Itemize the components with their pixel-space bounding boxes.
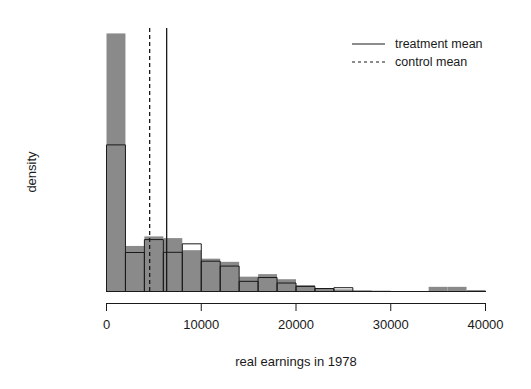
histogram-bar-control — [429, 287, 448, 292]
histogram-bar-control — [201, 259, 220, 292]
x-axis-tick-label: 0 — [103, 317, 110, 332]
x-axis-tick-label: 30000 — [373, 317, 409, 332]
x-axis-tick-label: 40000 — [467, 317, 503, 332]
x-axis-title: real earnings in 1978 — [235, 354, 356, 369]
x-axis-tick-label: 20000 — [278, 317, 314, 332]
histogram-bar-control — [107, 33, 126, 291]
histogram-figure: 010000200003000040000 real earnings in 1… — [0, 0, 531, 389]
y-axis-title: density — [24, 151, 39, 193]
histogram-bar-control — [277, 279, 296, 291]
histogram-bar-control — [448, 287, 467, 292]
histogram-bar-control — [144, 236, 163, 291]
legend-label-control-mean: control mean — [395, 55, 467, 69]
x-axis-tick-label: 10000 — [183, 317, 219, 332]
histogram-bar-control — [182, 250, 201, 291]
histogram-bar-control — [239, 277, 258, 292]
legend-label-treatment-mean: treatment mean — [395, 37, 483, 51]
histogram-bar-control — [258, 274, 277, 291]
